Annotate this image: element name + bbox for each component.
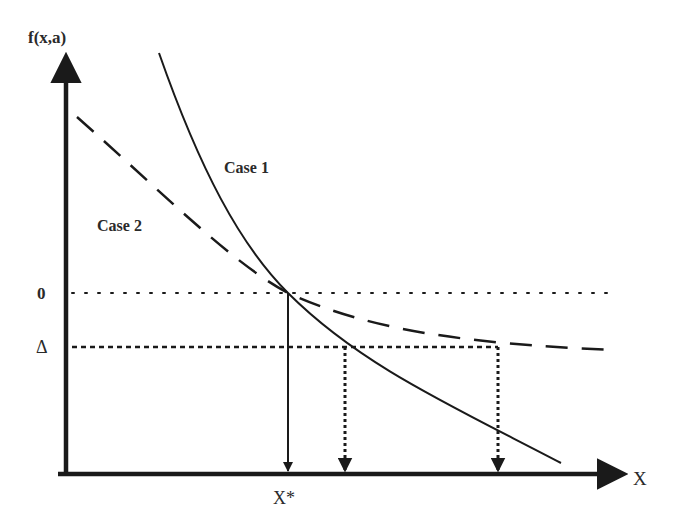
case-1-curve	[159, 53, 561, 463]
zero-tick-label: 0	[37, 284, 46, 303]
delta-tick-label: Δ	[36, 337, 48, 357]
diagram-canvas: f(x,a) X 0 Δ X* Case 1 Case 2	[0, 0, 679, 528]
y-axis-label: f(x,a)	[28, 28, 66, 47]
x-axis-label: X	[633, 468, 647, 489]
case-1-label: Case 1	[224, 159, 269, 176]
case-2-curve	[77, 117, 612, 350]
x-star-label: X*	[273, 488, 295, 508]
case-2-label: Case 2	[97, 217, 142, 234]
